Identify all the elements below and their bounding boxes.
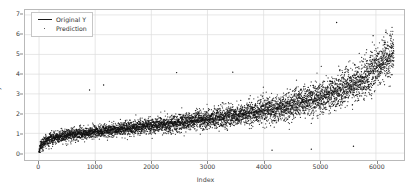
- x-tick-mark: [264, 161, 265, 164]
- x-tick-label: 6000: [369, 164, 385, 170]
- legend-label: Prediction: [56, 25, 87, 32]
- x-tick-mark: [151, 161, 152, 164]
- x-tick-mark: [95, 161, 96, 164]
- x-tick-label: 3000: [200, 164, 216, 170]
- legend-dot-icon: [36, 28, 53, 30]
- x-tick-label: 4000: [256, 164, 272, 170]
- legend-label: Original Y: [56, 16, 86, 23]
- x-tick-mark: [320, 161, 321, 164]
- y-tick-mark: [20, 74, 23, 75]
- y-tick-mark: [20, 94, 23, 95]
- chart-figure: 01234567 0100020003000400050006000 y Ind…: [0, 0, 411, 188]
- x-axis-tick-labels: 0100020003000400050006000: [24, 164, 405, 174]
- x-tick-mark: [207, 161, 208, 164]
- y-tick-mark: [20, 154, 23, 155]
- legend-item-prediction[interactable]: Prediction: [36, 24, 87, 33]
- prediction-scatter: [38, 22, 394, 153]
- x-tick-label: 2000: [143, 164, 159, 170]
- y-axis-title: y: [0, 87, 1, 91]
- x-tick-mark: [38, 161, 39, 164]
- legend-item-original-y[interactable]: Original Y: [36, 15, 87, 24]
- x-tick-label: 0: [36, 164, 40, 170]
- x-tick-label: 1000: [87, 164, 103, 170]
- y-tick-mark: [20, 134, 23, 135]
- y-tick-mark: [20, 54, 23, 55]
- x-tick-mark: [377, 161, 378, 164]
- chart-legend[interactable]: Original Y Prediction: [31, 12, 93, 37]
- y-tick-mark: [20, 14, 23, 15]
- x-tick-label: 5000: [312, 164, 328, 170]
- x-axis-title: Index: [0, 176, 411, 184]
- y-tick-mark: [20, 34, 23, 35]
- y-axis-tick-labels: 01234567: [0, 9, 20, 161]
- y-tick-mark: [20, 114, 23, 115]
- legend-line-icon: [36, 19, 53, 20]
